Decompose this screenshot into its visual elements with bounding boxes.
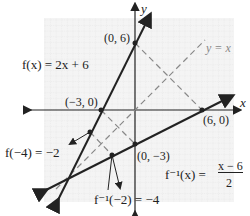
y-axis-label: y: [141, 2, 147, 15]
point-neg3-0: (−3, 0): [65, 96, 98, 108]
point-6-0: (6, 0): [203, 114, 229, 126]
finv-numerator: x − 6: [218, 160, 243, 173]
identity-label: y = x: [206, 42, 231, 54]
finv-denominator: 2: [226, 177, 232, 189]
f-equation: f(x) = 2x + 6: [22, 58, 89, 71]
point-0-neg3: (0, −3): [137, 150, 170, 162]
point-0-6: (0, 6): [104, 32, 130, 44]
finv-neg2-label: f⁻¹(−2) = −4: [94, 193, 159, 206]
finv-equation-lhs: f⁻¹(x) =: [165, 168, 206, 181]
x-axis-label: x: [240, 96, 246, 109]
f-neg4-label: f(−4) = −2: [5, 146, 59, 159]
